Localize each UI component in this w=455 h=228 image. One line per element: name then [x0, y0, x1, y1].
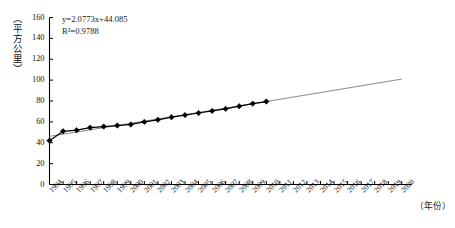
y-axis-tick-label: 140	[20, 33, 45, 42]
y-axis-tick-label: 20	[20, 159, 45, 168]
y-axis-tick-label: 40	[20, 138, 45, 147]
data-point-marker	[169, 114, 174, 119]
data-point-marker	[209, 108, 214, 113]
data-point-marker	[115, 123, 120, 128]
y-axis-tick-label: 160	[20, 13, 45, 22]
data-point-marker	[264, 99, 269, 104]
data-point-marker	[155, 117, 160, 122]
data-point-marker	[250, 101, 255, 106]
data-point-marker	[196, 110, 201, 115]
data-point-marker	[142, 119, 147, 124]
y-axis-tick-label: 120	[20, 54, 45, 63]
data-point-marker	[182, 112, 187, 117]
chart-plot-area	[0, 0, 455, 228]
y-axis-tick-label: 80	[20, 96, 45, 105]
y-axis-tick-label: 60	[20, 117, 45, 126]
chart-figure: （平方公里） y=2.0773x+44.085 R²=0.9788 020406…	[0, 0, 455, 228]
y-axis-tick-label: 0	[20, 180, 45, 189]
y-axis-tick-label: 100	[20, 75, 45, 84]
trend-line	[266, 79, 402, 101]
data-point-marker	[237, 104, 242, 109]
x-axis-unit-label: （年份）	[415, 199, 451, 211]
data-point-marker	[101, 124, 106, 129]
data-point-marker	[223, 106, 228, 111]
